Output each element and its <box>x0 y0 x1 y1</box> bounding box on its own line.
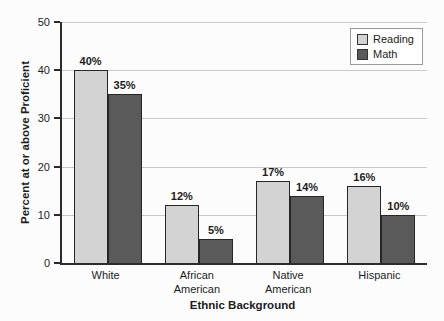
legend-item-reading: Reading <box>357 33 414 45</box>
y-tick-label-10: 10 <box>20 208 50 222</box>
bar-native-american-reading <box>256 181 290 263</box>
x-axis-title: Ethnic Background <box>60 299 425 311</box>
legend-label-reading: Reading <box>373 33 414 45</box>
category-label-hispanic: Hispanic <box>334 268 424 282</box>
bar-white-math <box>108 94 142 263</box>
gridline-40 <box>62 70 427 71</box>
bar-hispanic-math <box>381 215 415 263</box>
y-tick-0 <box>54 262 60 264</box>
y-tick-label-0: 0 <box>20 256 50 270</box>
bar-african-american-math <box>199 239 233 263</box>
y-tick-30 <box>54 117 60 119</box>
bar-chart: Percent at or above Proficient Reading M… <box>0 0 444 321</box>
bar-label-white-math: 35% <box>100 79 150 91</box>
legend-label-math: Math <box>373 48 397 60</box>
bar-label-hispanic-reading: 16% <box>339 171 389 183</box>
y-axis-title: Percent at or above Proficient <box>19 22 31 263</box>
y-tick-20 <box>54 166 60 168</box>
gridline-50 <box>62 22 427 23</box>
y-tick-10 <box>54 214 60 216</box>
legend-item-math: Math <box>357 48 414 60</box>
category-label-african-american: African American <box>152 268 242 296</box>
category-label-white: White <box>61 268 151 282</box>
bar-label-african-american-math: 5% <box>191 224 241 236</box>
category-label-native-american: Native American <box>243 268 333 296</box>
y-tick-50 <box>54 21 60 23</box>
bar-label-white-reading: 40% <box>66 55 116 67</box>
reading-swatch-icon <box>357 34 368 45</box>
bar-hispanic-reading <box>347 186 381 263</box>
bar-native-american-math <box>290 196 324 263</box>
y-tick-label-40: 40 <box>20 63 50 77</box>
y-tick-40 <box>54 69 60 71</box>
plot-area: Reading Math 40%35%12%5%17%14%16%10% <box>60 22 427 265</box>
legend: Reading Math <box>350 28 423 65</box>
bar-label-native-american-reading: 17% <box>248 166 298 178</box>
bar-white-reading <box>74 70 108 263</box>
y-tick-label-30: 30 <box>20 111 50 125</box>
bar-label-hispanic-math: 10% <box>373 200 423 212</box>
math-swatch-icon <box>357 49 368 60</box>
y-tick-label-20: 20 <box>20 160 50 174</box>
bar-label-native-american-math: 14% <box>282 181 332 193</box>
bar-label-african-american-reading: 12% <box>157 190 207 202</box>
y-tick-label-50: 50 <box>20 15 50 29</box>
